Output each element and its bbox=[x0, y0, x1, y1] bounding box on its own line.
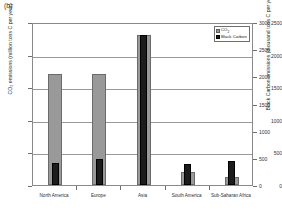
bar-group bbox=[33, 24, 254, 185]
legend-entry: Black Carbon bbox=[216, 34, 248, 40]
right-axis-tick-label: 0 bbox=[259, 183, 281, 189]
plot-area bbox=[32, 23, 253, 186]
category-label: Asia bbox=[138, 193, 147, 198]
category-tick bbox=[76, 186, 77, 190]
legend-swatch bbox=[216, 35, 220, 39]
category-label: Sub-Saharan Africa bbox=[211, 193, 251, 198]
right-axis-title: Black Carbon emissions (thousand tons C … bbox=[265, 0, 271, 131]
bar-black-carbon bbox=[228, 161, 235, 185]
left-axis-tick bbox=[28, 186, 32, 187]
figure-panel-b: (b) 05001000150020002500 050010001500200… bbox=[0, 0, 282, 218]
category-label: South America bbox=[172, 193, 202, 198]
left-axis-title: CO₂ emissions (million tons C per year) bbox=[7, 0, 13, 129]
category-tick bbox=[120, 186, 121, 190]
category-tick bbox=[165, 186, 166, 190]
category-tick bbox=[209, 186, 210, 190]
category-label: North America bbox=[40, 193, 69, 198]
category-label: Europe bbox=[91, 193, 106, 198]
legend-swatch bbox=[216, 29, 220, 33]
right-axis-tick bbox=[253, 186, 257, 187]
legend-label: Black Carbon bbox=[221, 34, 247, 40]
chart-legend: CO2Black Carbon bbox=[214, 26, 250, 42]
right-axis-tick-label: 500 bbox=[259, 156, 281, 162]
